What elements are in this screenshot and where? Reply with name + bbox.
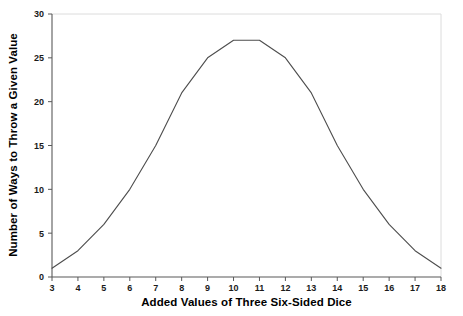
x-tick-label: 4 (75, 283, 80, 293)
y-tick-label: 25 (34, 53, 44, 63)
x-tick-label: 10 (229, 283, 239, 293)
x-tick-label: 16 (384, 283, 394, 293)
x-tick-label: 18 (436, 283, 446, 293)
y-tick-label: 10 (34, 185, 44, 195)
x-tick-label: 13 (306, 283, 316, 293)
x-tick-label: 12 (280, 283, 290, 293)
y-tick-label: 0 (39, 272, 44, 282)
y-tick-label: 15 (34, 141, 44, 151)
y-tick-label: 30 (34, 9, 44, 19)
x-tick-label: 3 (49, 283, 54, 293)
x-tick-label: 14 (332, 283, 342, 293)
chart-container: Number of Ways to Throw a Given Value 05… (0, 0, 463, 316)
y-axis-ticks: 051015202530 (34, 9, 52, 282)
plot-background (52, 14, 441, 277)
x-axis-title: Added Values of Three Six-Sided Dice (52, 296, 441, 308)
y-tick-label: 20 (34, 97, 44, 107)
x-tick-label: 8 (179, 283, 184, 293)
plot-area-svg: 051015202530 3456789101112131415161718 (0, 0, 463, 316)
y-tick-label: 5 (39, 229, 44, 239)
x-tick-label: 17 (410, 283, 420, 293)
x-tick-label: 5 (101, 283, 106, 293)
x-axis-ticks: 3456789101112131415161718 (49, 277, 446, 293)
x-tick-label: 15 (358, 283, 368, 293)
plot-frame (52, 14, 441, 277)
x-tick-label: 7 (153, 283, 158, 293)
x-tick-label: 6 (127, 283, 132, 293)
x-tick-label: 11 (255, 283, 265, 293)
x-tick-label: 9 (205, 283, 210, 293)
